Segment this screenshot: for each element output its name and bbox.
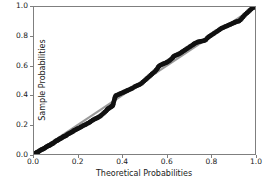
x-axis-label: Theoretical Probabilities [96,170,192,178]
xtick-label-0-4: 0.4 [116,158,128,166]
plot-canvas [34,7,255,154]
ytick-label-0-4: 0.4 [16,92,28,100]
ytick-mark-0-2 [30,125,33,126]
data-point-group [34,7,255,154]
ytick-mark-0-6 [30,66,33,67]
xtick-label-0-2: 0.2 [72,158,84,166]
ytick-label-0-6: 0.6 [16,62,28,70]
pp-plot-figure: 1.0 0.8 0.6 0.4 0.2 0.0 0.0 0.2 0.4 0.6 … [0,0,266,182]
xtick-label-1-0: 1.0 [250,158,262,166]
xtick-label-0-0: 0.0 [27,158,39,166]
xtick-label-0-6: 0.6 [161,158,173,166]
ytick-mark-0-4 [30,95,33,96]
ytick-label-0-2: 0.2 [16,121,28,129]
ytick-mark-1-0 [30,6,33,7]
ytick-mark-0-8 [30,36,33,37]
ytick-label-0-8: 0.8 [16,32,28,40]
xtick-label-0-8: 0.8 [205,158,217,166]
ytick-label-1-0: 1.0 [16,2,28,10]
y-axis-label: Sample Probabilities [39,39,47,120]
plot-area [33,6,256,155]
